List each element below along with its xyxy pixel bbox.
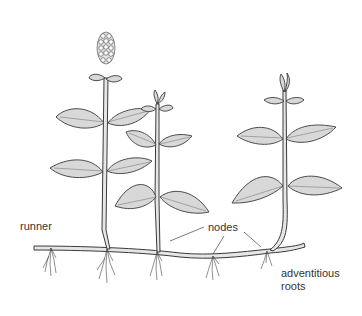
- nodes-label: nodes: [208, 221, 238, 234]
- root-cluster-4: [206, 256, 219, 280]
- plant-3: [232, 73, 342, 251]
- adventitious-roots-label-line1: adventitious: [281, 267, 340, 280]
- root-cluster-3: [150, 252, 162, 280]
- runner-stem: [34, 243, 305, 258]
- diagram-canvas: runner nodes adventitious roots: [0, 0, 362, 316]
- adventitious-roots-label: adventitious roots: [281, 267, 340, 293]
- runner-label: runner: [20, 220, 52, 233]
- root-cluster-1: [43, 248, 56, 276]
- root-cluster-2: [97, 249, 115, 283]
- adventitious-roots-label-line2: roots: [281, 280, 340, 293]
- flower-spike: [97, 32, 115, 64]
